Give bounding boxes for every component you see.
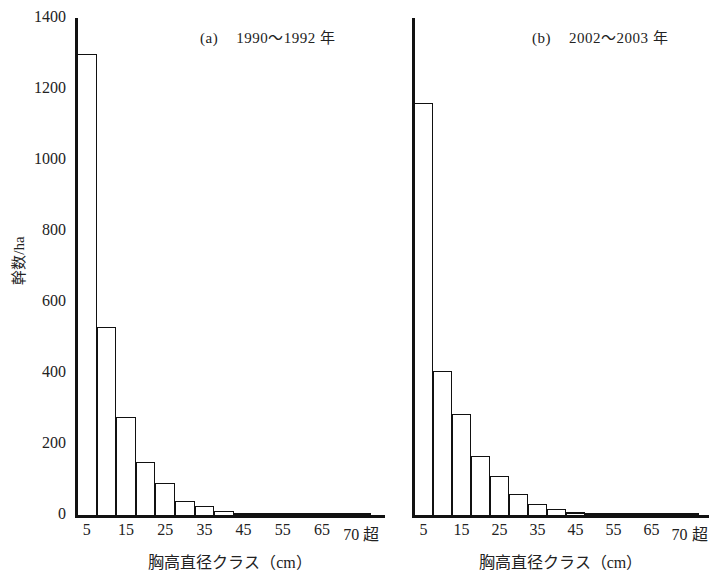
bar bbox=[175, 501, 195, 515]
plot-area-b bbox=[412, 18, 709, 518]
bar bbox=[273, 513, 293, 515]
bar bbox=[566, 512, 585, 515]
bar bbox=[234, 513, 254, 515]
bar bbox=[195, 506, 215, 515]
bar bbox=[452, 414, 471, 515]
bar bbox=[509, 494, 528, 515]
figure-root: (a)1990〜1992 年 幹数/ha 0200400600800100012… bbox=[0, 0, 722, 582]
bar bbox=[253, 513, 273, 515]
bar bbox=[97, 327, 117, 515]
bar bbox=[77, 54, 97, 516]
bar bbox=[414, 103, 433, 515]
y-tick-label: 200 bbox=[14, 434, 66, 452]
bar bbox=[312, 513, 332, 515]
y-tick-label: 1400 bbox=[14, 8, 66, 26]
y-tick-label: 800 bbox=[14, 221, 66, 239]
bar bbox=[623, 513, 642, 515]
bar bbox=[585, 513, 604, 515]
bar bbox=[642, 513, 661, 515]
bar bbox=[547, 509, 566, 515]
bar bbox=[155, 483, 175, 515]
x-tick-label: 70 超 bbox=[660, 521, 720, 545]
bar bbox=[116, 417, 136, 515]
bar bbox=[604, 513, 623, 515]
x-axis-label-b: 胸高直径クラス（cm） bbox=[412, 549, 709, 573]
bar bbox=[136, 462, 156, 515]
bar bbox=[680, 513, 699, 515]
y-tick-label: 1200 bbox=[14, 79, 66, 97]
bar bbox=[661, 513, 680, 515]
y-tick-label: 400 bbox=[14, 363, 66, 381]
y-tick-label: 1000 bbox=[14, 150, 66, 168]
x-axis-line-b bbox=[412, 515, 709, 518]
bar-series-b bbox=[412, 18, 709, 515]
bar bbox=[471, 456, 490, 515]
bar bbox=[528, 504, 547, 515]
bar bbox=[293, 513, 313, 515]
bar bbox=[214, 511, 234, 515]
y-tick-label: 600 bbox=[14, 292, 66, 310]
bar bbox=[490, 476, 509, 515]
bar bbox=[433, 371, 452, 515]
